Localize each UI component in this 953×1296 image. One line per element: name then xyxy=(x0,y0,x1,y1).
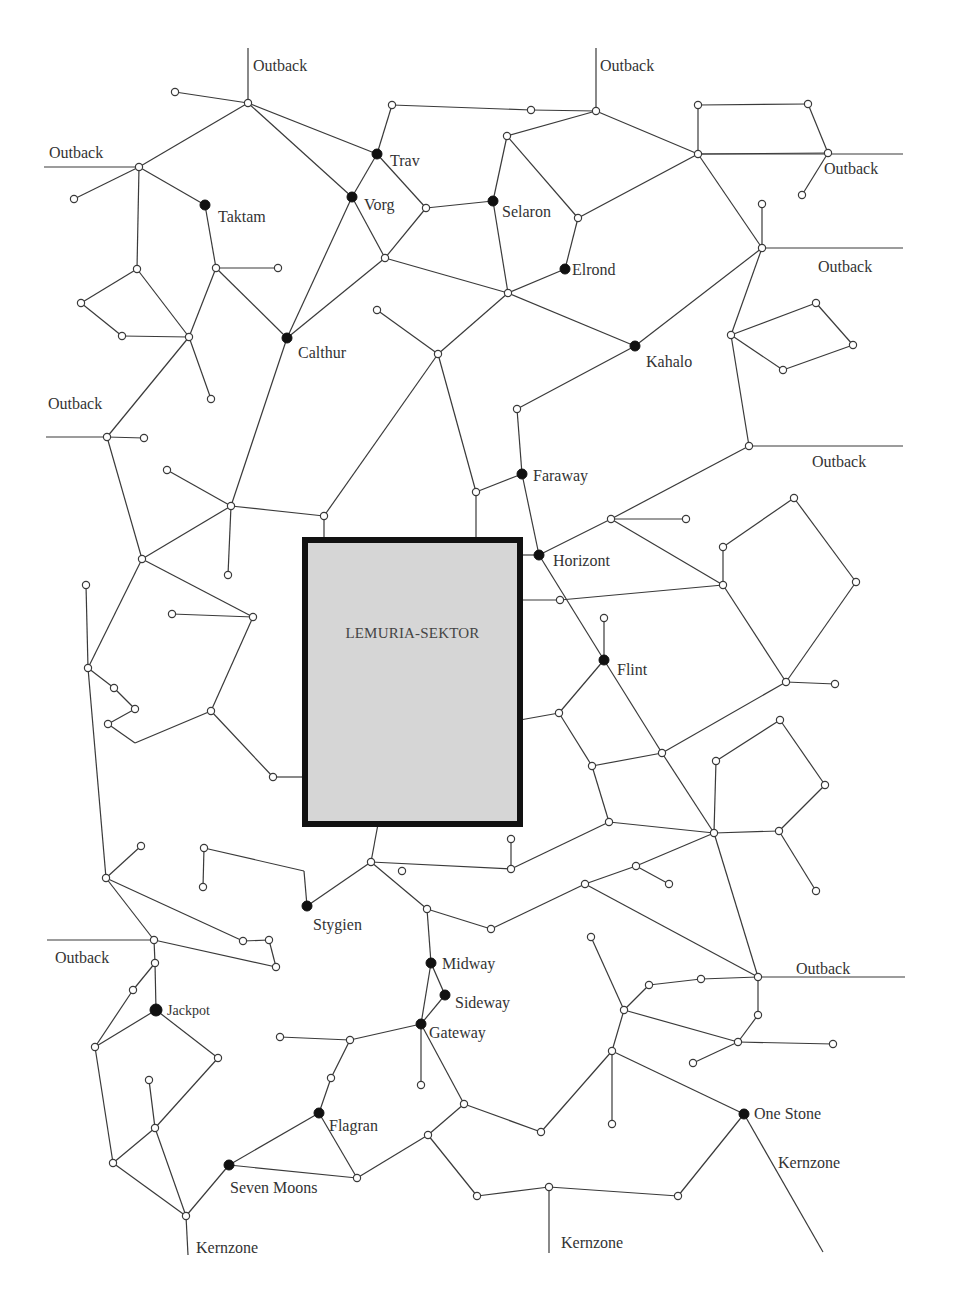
waypoint-node[interactable] xyxy=(849,341,856,348)
waypoint-node[interactable] xyxy=(831,680,838,687)
waypoint-node[interactable] xyxy=(269,773,276,780)
waypoint-node[interactable] xyxy=(398,867,405,874)
system-calthur[interactable]: Calthur xyxy=(282,333,347,361)
system-trav[interactable]: Trav xyxy=(372,149,420,169)
system-dot-icon[interactable] xyxy=(630,341,640,351)
waypoint-node[interactable] xyxy=(138,555,145,562)
system-one_stone[interactable]: One Stone xyxy=(739,1105,821,1122)
system-dot-icon[interactable] xyxy=(560,264,570,274)
waypoint-node[interactable] xyxy=(545,1183,552,1190)
waypoint-node[interactable] xyxy=(779,366,786,373)
waypoint-node[interactable] xyxy=(274,264,281,271)
waypoint-node[interactable] xyxy=(200,844,207,851)
waypoint-node[interactable] xyxy=(487,925,494,932)
system-dot-icon[interactable] xyxy=(426,958,436,968)
system-jackpot[interactable]: Jackpot xyxy=(150,1003,210,1018)
waypoint-node[interactable] xyxy=(665,880,672,887)
waypoint-node[interactable] xyxy=(150,936,157,943)
waypoint-node[interactable] xyxy=(265,936,272,943)
waypoint-node[interactable] xyxy=(658,749,665,756)
waypoint-node[interactable] xyxy=(434,350,441,357)
waypoint-node[interactable] xyxy=(373,306,380,313)
waypoint-node[interactable] xyxy=(140,434,147,441)
system-dot-icon[interactable] xyxy=(440,990,450,1000)
waypoint-node[interactable] xyxy=(129,986,136,993)
waypoint-node[interactable] xyxy=(131,705,138,712)
waypoint-node[interactable] xyxy=(327,1074,334,1081)
waypoint-node[interactable] xyxy=(249,613,256,620)
waypoint-node[interactable] xyxy=(145,1076,152,1083)
waypoint-node[interactable] xyxy=(276,1033,283,1040)
system-dot-icon[interactable] xyxy=(517,469,527,479)
waypoint-node[interactable] xyxy=(102,874,109,881)
waypoint-node[interactable] xyxy=(804,100,811,107)
waypoint-node[interactable] xyxy=(727,331,734,338)
waypoint-node[interactable] xyxy=(645,981,652,988)
system-dot-icon[interactable] xyxy=(416,1019,426,1029)
waypoint-node[interactable] xyxy=(151,959,158,966)
waypoint-node[interactable] xyxy=(689,1059,696,1066)
system-vorg[interactable]: Vorg xyxy=(347,192,395,214)
waypoint-node[interactable] xyxy=(135,163,142,170)
waypoint-node[interactable] xyxy=(133,265,140,272)
system-dot-icon[interactable] xyxy=(534,550,544,560)
waypoint-node[interactable] xyxy=(719,581,726,588)
waypoint-node[interactable] xyxy=(776,716,783,723)
waypoint-node[interactable] xyxy=(320,512,327,519)
lemuria-sector[interactable]: LEMURIA-SEKTOR xyxy=(305,540,520,824)
waypoint-node[interactable] xyxy=(422,204,429,211)
waypoint-node[interactable] xyxy=(224,571,231,578)
waypoint-node[interactable] xyxy=(694,101,701,108)
waypoint-node[interactable] xyxy=(163,466,170,473)
waypoint-node[interactable] xyxy=(694,150,701,157)
waypoint-node[interactable] xyxy=(417,1081,424,1088)
waypoint-node[interactable] xyxy=(91,1043,98,1050)
system-stygien[interactable]: Stygien xyxy=(302,901,362,934)
waypoint-node[interactable] xyxy=(754,1011,761,1018)
waypoint-node[interactable] xyxy=(527,106,534,113)
waypoint-node[interactable] xyxy=(758,200,765,207)
waypoint-node[interactable] xyxy=(513,405,520,412)
system-dot-icon[interactable] xyxy=(302,901,312,911)
waypoint-node[interactable] xyxy=(632,862,639,869)
waypoint-node[interactable] xyxy=(775,827,782,834)
waypoint-node[interactable] xyxy=(353,1174,360,1181)
system-taktam[interactable]: Taktam xyxy=(200,200,266,225)
waypoint-node[interactable] xyxy=(151,1124,158,1131)
waypoint-node[interactable] xyxy=(346,1036,353,1043)
waypoint-node[interactable] xyxy=(588,762,595,769)
waypoint-node[interactable] xyxy=(171,88,178,95)
system-dot-icon[interactable] xyxy=(224,1160,234,1170)
system-dot-icon[interactable] xyxy=(314,1108,324,1118)
system-dot-icon[interactable] xyxy=(739,1109,749,1119)
waypoint-node[interactable] xyxy=(381,254,388,261)
waypoint-node[interactable] xyxy=(607,515,614,522)
waypoint-node[interactable] xyxy=(118,332,125,339)
waypoint-node[interactable] xyxy=(84,664,91,671)
waypoint-node[interactable] xyxy=(790,494,797,501)
waypoint-node[interactable] xyxy=(555,709,562,716)
waypoint-node[interactable] xyxy=(852,578,859,585)
waypoint-node[interactable] xyxy=(104,720,111,727)
waypoint-node[interactable] xyxy=(682,515,689,522)
waypoint-node[interactable] xyxy=(812,887,819,894)
waypoint-node[interactable] xyxy=(77,299,84,306)
system-dot-icon[interactable] xyxy=(347,192,357,202)
waypoint-node[interactable] xyxy=(608,1120,615,1127)
waypoint-node[interactable] xyxy=(734,1038,741,1045)
waypoint-node[interactable] xyxy=(712,757,719,764)
waypoint-node[interactable] xyxy=(239,937,246,944)
waypoint-node[interactable] xyxy=(185,333,192,340)
system-faraway[interactable]: Faraway xyxy=(517,467,588,485)
waypoint-node[interactable] xyxy=(244,99,251,106)
waypoint-node[interactable] xyxy=(214,1054,221,1061)
waypoint-node[interactable] xyxy=(821,781,828,788)
system-dot-icon[interactable] xyxy=(372,149,382,159)
waypoint-node[interactable] xyxy=(710,829,717,836)
waypoint-node[interactable] xyxy=(745,442,752,449)
waypoint-node[interactable] xyxy=(110,684,117,691)
waypoint-node[interactable] xyxy=(168,610,175,617)
waypoint-node[interactable] xyxy=(829,1040,836,1047)
waypoint-node[interactable] xyxy=(758,244,765,251)
waypoint-node[interactable] xyxy=(82,581,89,588)
